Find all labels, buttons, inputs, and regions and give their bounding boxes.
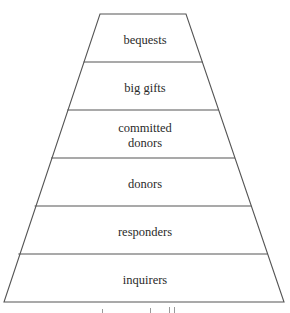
tier-label-big-gifts: big gifts — [0, 81, 290, 96]
tier-label-inquirers: inquirers — [0, 273, 290, 288]
tier-label-committed-donors-line1: committed — [0, 121, 290, 136]
tier-label-responders: responders — [0, 225, 290, 240]
tier-label-committed-donors-line2: donors — [0, 136, 290, 151]
tier-label-bequests: bequests — [0, 33, 290, 48]
clipped-caption — [90, 306, 200, 313]
tier-label-donors: donors — [0, 177, 290, 192]
